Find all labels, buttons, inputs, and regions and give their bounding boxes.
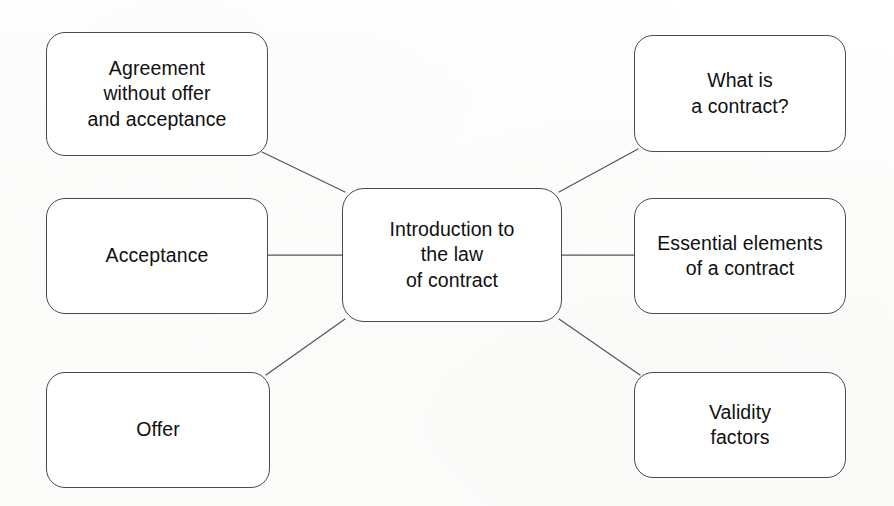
connector-offer-to-center [266, 319, 345, 375]
node-agreement-without-offer-and-acceptance[interactable]: Agreement without offer and acceptance [46, 32, 268, 156]
connector-center-to-validity [559, 319, 640, 375]
diagram-canvas: Agreement without offer and acceptance A… [0, 0, 894, 506]
node-offer[interactable]: Offer [46, 372, 270, 488]
node-essential-elements-of-a-contract[interactable]: Essential elements of a contract [634, 198, 846, 314]
node-label: Validity factors [699, 400, 781, 451]
node-label: Essential elements of a contract [653, 231, 826, 282]
node-label: Agreement without offer and acceptance [77, 56, 236, 132]
node-label: What is a contract? [681, 68, 799, 119]
node-center-introduction-to-the-law-of-contract[interactable]: Introduction to the law of contract [342, 188, 562, 322]
node-label: Acceptance [96, 243, 219, 268]
node-label: Introduction to the law of contract [379, 217, 524, 293]
node-acceptance[interactable]: Acceptance [46, 198, 268, 314]
node-what-is-a-contract[interactable]: What is a contract? [634, 35, 846, 152]
connector-center-to-what-is-contract [559, 149, 638, 192]
node-label: Offer [126, 417, 190, 442]
node-validity-factors[interactable]: Validity factors [634, 372, 846, 478]
connector-agreement-to-center [262, 152, 345, 192]
